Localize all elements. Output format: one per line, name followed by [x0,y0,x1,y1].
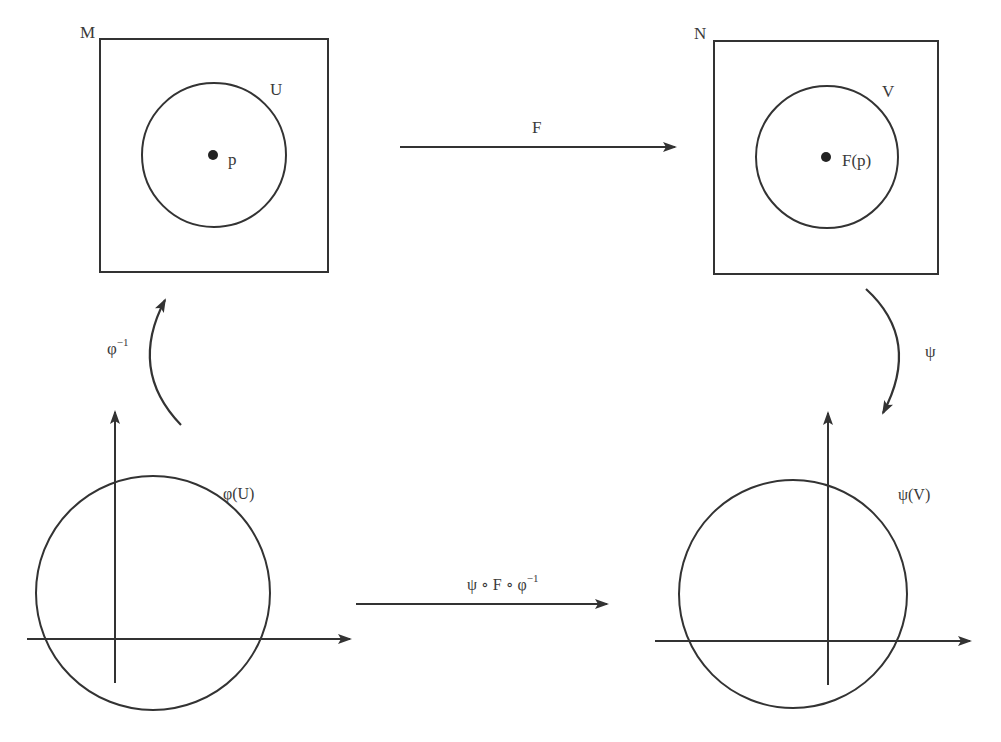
commutative-diagram: M U p F N V F(p) φ−1 ψ φ(U) [0,0,1001,742]
psi-curved-arrow [866,289,899,413]
psi-v-label: ψ(V) [898,486,930,504]
point-p-label: p [228,150,237,169]
point-fp-dot [821,152,831,162]
map-f: F [400,118,675,147]
phi-inverse-curved-arrow [150,300,181,425]
phi-inverse-label: φ−1 [107,336,129,358]
phi-u-circle [36,476,270,710]
manifold-n-label: N [694,24,706,43]
euclidean-right: ψ(V) [655,413,970,708]
coordinate-map: ψ ∘ F ∘ φ−1 [356,572,607,604]
psi-v-circle [679,480,907,708]
chart-phi-inverse: φ−1 [107,300,181,425]
phi-u-label: φ(U) [223,485,254,503]
psi-label: ψ [925,342,936,361]
point-p-dot [208,150,218,160]
open-set-v-label: V [882,82,895,101]
manifold-n: N V F(p) [694,24,938,274]
open-set-u-label: U [270,80,282,99]
manifold-m: M U p [80,23,328,272]
map-f-label: F [532,118,541,137]
chart-psi: ψ [866,289,936,413]
manifold-m-label: M [80,23,95,42]
coordinate-map-label: ψ ∘ F ∘ φ−1 [467,572,539,594]
point-fp-label: F(p) [842,151,871,170]
euclidean-left: φ(U) [27,412,350,710]
